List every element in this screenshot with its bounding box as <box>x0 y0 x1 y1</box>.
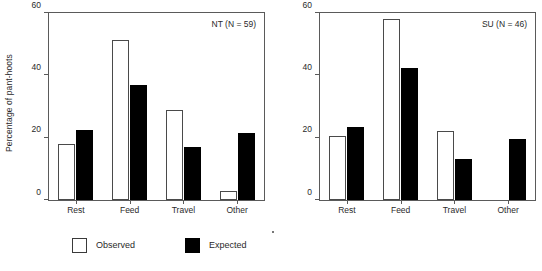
figure-pant-hoot-activity-budget: Percentage of pant-hoots NT (N = 59) 020… <box>0 0 542 271</box>
bar-group <box>383 13 418 200</box>
y-tick-mark <box>44 199 49 200</box>
y-tick-mark <box>44 12 49 13</box>
bar-expected-rest <box>347 127 364 200</box>
bar-group <box>329 13 364 200</box>
bar-group <box>491 13 526 200</box>
y-tick-mark <box>44 137 49 138</box>
plot-area-nt: NT (N = 59) 0204060 RestFeedTravelOther <box>48 12 265 201</box>
x-tick-mark <box>183 200 184 204</box>
bar-expected-other <box>509 139 526 200</box>
bars-nt <box>49 13 264 200</box>
bar-observed-travel <box>437 131 454 200</box>
x-tick-mark <box>347 200 348 204</box>
legend-item-expected: Expected <box>185 236 247 254</box>
bar-observed-rest <box>329 136 346 200</box>
bar-group <box>166 13 201 200</box>
legend-item-observed: Observed <box>72 236 135 254</box>
x-tick-label-travel: Travel <box>443 206 466 215</box>
panel-container: Percentage of pant-hoots NT (N = 59) 020… <box>0 0 542 224</box>
y-tick-mark <box>315 199 320 200</box>
x-tick-label-other: Other <box>226 206 247 215</box>
panel-su: SU (N = 46) 0204060 RestFeedTravelOther <box>271 0 542 224</box>
bar-observed-feed <box>383 19 400 200</box>
x-tick-mark <box>130 200 131 204</box>
bar-expected-rest <box>76 130 93 200</box>
y-tick-label: 40 <box>32 63 41 72</box>
y-tick-mark <box>44 74 49 75</box>
legend-label-observed: Observed <box>96 241 135 250</box>
x-tick-label-rest: Rest <box>338 206 355 215</box>
bar-observed-travel <box>166 110 183 200</box>
bar-group <box>437 13 472 200</box>
stray-mark <box>272 231 274 233</box>
legend-swatch-expected-icon <box>185 238 200 253</box>
y-tick-mark <box>315 137 320 138</box>
bar-observed-other <box>220 191 237 200</box>
x-tick-label-rest: Rest <box>67 206 84 215</box>
bar-expected-feed <box>401 68 418 200</box>
bar-expected-feed <box>130 85 147 200</box>
bar-expected-other <box>238 133 255 200</box>
y-tick-label: 0 <box>307 187 312 196</box>
bar-expected-travel <box>184 147 201 200</box>
y-tick-mark <box>315 12 320 13</box>
bar-expected-travel <box>455 159 472 200</box>
y-tick-label: 60 <box>303 0 312 9</box>
legend-swatch-observed-icon <box>72 238 87 253</box>
plot-area-su: SU (N = 46) 0204060 RestFeedTravelOther <box>319 12 536 201</box>
bars-su <box>320 13 535 200</box>
panel-nt: Percentage of pant-hoots NT (N = 59) 020… <box>0 0 271 224</box>
x-tick-label-other: Other <box>497 206 518 215</box>
x-tick-mark <box>508 200 509 204</box>
legend-label-expected: Expected <box>209 241 247 250</box>
x-tick-mark <box>454 200 455 204</box>
x-tick-mark <box>237 200 238 204</box>
x-tick-label-travel: Travel <box>172 206 195 215</box>
bar-observed-feed <box>112 40 129 201</box>
x-tick-label-feed: Feed <box>391 206 410 215</box>
legend: Observed Expected <box>0 236 542 260</box>
x-tick-mark <box>76 200 77 204</box>
y-tick-mark <box>315 74 320 75</box>
bar-observed-rest <box>58 144 75 200</box>
y-tick-label: 20 <box>32 125 41 134</box>
x-tick-mark <box>401 200 402 204</box>
y-tick-label: 20 <box>303 125 312 134</box>
bar-group <box>58 13 93 200</box>
y-tick-label: 0 <box>36 187 41 196</box>
y-tick-label: 40 <box>303 63 312 72</box>
y-tick-label: 60 <box>32 0 41 9</box>
y-axis-title: Percentage of pant-hoots <box>2 8 16 198</box>
x-tick-label-feed: Feed <box>120 206 139 215</box>
bar-group <box>220 13 255 200</box>
bar-group <box>112 13 147 200</box>
